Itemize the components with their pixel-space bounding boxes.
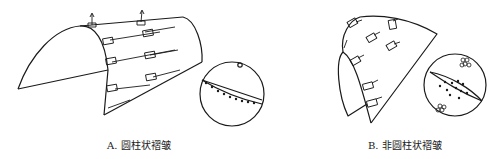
stereonet-a — [200, 62, 264, 126]
non-cylindrical-fold-drawing — [338, 16, 486, 123]
caption-panel-b: B. 非圆柱状褶皱 — [368, 137, 442, 152]
lineation-arrows-b — [344, 18, 400, 107]
stereonet-b — [424, 54, 486, 116]
lineation-arrows — [88, 10, 180, 108]
fold-diagram — [0, 0, 503, 159]
caption-panel-a: A. 圆柱状褶皱 — [107, 137, 171, 152]
cylindrical-fold-drawing — [18, 10, 264, 126]
